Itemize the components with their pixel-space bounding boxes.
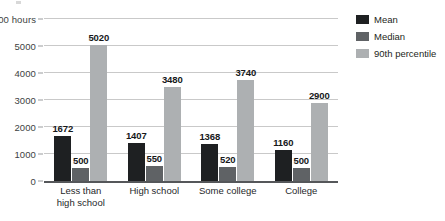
legend-swatch-icon <box>356 49 369 58</box>
legend-label: Median <box>374 31 405 42</box>
bar-value-label: 3480 <box>162 74 183 85</box>
bar: 500 <box>72 168 89 182</box>
bar-value-label: 2900 <box>309 90 330 101</box>
bar: 3740 <box>237 80 254 181</box>
bar-value-label: 5020 <box>88 32 109 43</box>
bar: 3480 <box>164 87 181 181</box>
x-axis-category-label: Less thanhigh school <box>44 185 118 208</box>
y-axis-tick-label: 3000 <box>14 95 36 106</box>
y-axis-tick-label: 4000 <box>14 68 36 79</box>
y-axis-tick-mark <box>38 19 43 20</box>
y-axis-tick-label: 1000 <box>14 149 36 160</box>
y-axis-tick-mark <box>38 46 43 47</box>
bar-value-label: 550 <box>146 153 162 164</box>
x-axis-category-label: Some college <box>191 185 265 197</box>
y-axis-tick-mark <box>38 154 43 155</box>
legend: MeanMedian90th percentile <box>356 12 436 63</box>
bar-value-label: 520 <box>220 154 236 165</box>
x-axis-category-line: Some college <box>191 185 265 197</box>
y-axis-tick-mark <box>38 127 43 128</box>
bar-value-label: 500 <box>293 155 309 166</box>
y-axis-tick-mark <box>38 181 43 182</box>
legend-item: Mean <box>356 12 436 26</box>
bar-value-label: 1672 <box>52 123 73 134</box>
bar: 1368 <box>201 144 218 181</box>
legend-swatch-icon <box>356 32 369 41</box>
x-axis-category-line: College <box>265 185 339 197</box>
x-axis-category-line: Less than <box>44 185 118 197</box>
legend-item: 90th percentile <box>356 46 436 60</box>
x-axis-category-line: High school <box>118 185 192 197</box>
bar: 500 <box>293 168 310 182</box>
bar-group: 13685203740 <box>191 19 265 181</box>
x-axis-category-label: College <box>265 185 339 197</box>
bar-value-label: 1368 <box>199 131 220 142</box>
y-axis-tick-label: 0 <box>31 176 36 187</box>
bar: 5020 <box>90 45 107 181</box>
bar: 2900 <box>311 103 328 181</box>
x-axis-baseline <box>44 181 338 183</box>
bar: 1672 <box>54 136 71 181</box>
bar-value-label: 500 <box>73 155 89 166</box>
bar-chart: 0100020003000400050006000 hours 16725005… <box>0 0 445 221</box>
bar: 520 <box>219 167 236 181</box>
legend-label: Mean <box>374 14 398 25</box>
bar-value-label: 3740 <box>235 67 256 78</box>
y-axis-tick-mark <box>38 100 43 101</box>
legend-item: Median <box>356 29 436 43</box>
x-axis-labels: Less thanhigh schoolHigh schoolSome coll… <box>44 185 338 221</box>
bar: 1160 <box>275 150 292 181</box>
legend-label: 90th percentile <box>374 48 436 59</box>
bar-group: 16725005020 <box>44 19 118 181</box>
bar: 1407 <box>128 143 145 181</box>
x-axis-category-line: high school <box>44 197 118 209</box>
bar-value-label: 1407 <box>126 130 147 141</box>
x-axis-category-label: High school <box>118 185 192 197</box>
legend-swatch-icon <box>356 15 369 24</box>
y-axis-tick-label: 2000 <box>14 122 36 133</box>
bar-group: 14075503480 <box>118 19 192 181</box>
bar-group: 11605002900 <box>265 19 339 181</box>
y-axis: 0100020003000400050006000 hours <box>0 0 44 221</box>
y-axis-tick-mark <box>38 73 43 74</box>
y-axis-tick-label: 6000 hours <box>0 14 36 25</box>
y-axis-tick-label: 5000 <box>14 41 36 52</box>
plot-area: 1672500502014075503480136852037401160500… <box>44 19 338 181</box>
bar-value-label: 1160 <box>273 137 293 148</box>
bar: 550 <box>146 166 163 181</box>
